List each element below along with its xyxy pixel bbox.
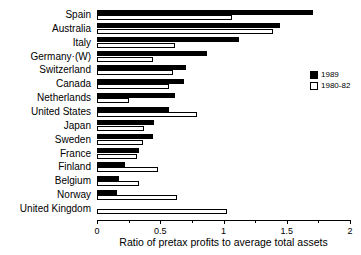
category-label: Switzerland (0, 63, 94, 77)
bar-1989 (97, 190, 117, 195)
category-label: Belgium (0, 174, 94, 188)
bar-1989 (97, 79, 184, 84)
bar-1980-82 (97, 195, 177, 200)
bar-1980-82 (97, 126, 144, 131)
bar-1989 (97, 176, 119, 181)
bar-chart: SpainAustraliaItalyGermany·(W)Switzerlan… (0, 0, 361, 255)
x-tick-minor (255, 220, 256, 223)
bar-row (97, 22, 350, 36)
x-tick-label: 0 (94, 226, 99, 236)
bar-1989 (97, 10, 313, 15)
bar-1980-82 (97, 15, 232, 20)
category-label: Japan (0, 119, 94, 133)
bar-1980-82 (97, 70, 173, 75)
bar-1980-82 (97, 112, 197, 117)
legend-label-1989: 1989 (321, 69, 339, 80)
bar-row (97, 50, 350, 64)
category-label: France (0, 147, 94, 161)
category-label: United Kingdom (0, 202, 94, 216)
x-tick (97, 220, 98, 224)
legend-swatch-1989 (310, 71, 318, 79)
category-label: Italy (0, 36, 94, 50)
x-tick (287, 220, 288, 224)
category-label: Germany·(W) (0, 50, 94, 64)
bar-1989 (97, 51, 207, 56)
bar-1980-82 (97, 29, 273, 34)
bar-row (97, 8, 350, 22)
bar-1989 (97, 65, 186, 70)
bar-1980-82 (97, 154, 137, 159)
bar-row (97, 105, 350, 119)
legend-item-1989: 1989 (310, 69, 350, 80)
category-label: Netherlands (0, 91, 94, 105)
bar-1980-82 (97, 140, 143, 145)
x-tick-minor (129, 220, 130, 223)
category-label: Finland (0, 160, 94, 174)
bar-1989 (97, 162, 125, 167)
bar-1980-82 (97, 167, 158, 172)
category-label: Sweden (0, 133, 94, 147)
x-tick-label: 1.5 (280, 226, 293, 236)
plot-area (97, 8, 350, 219)
x-tick (350, 220, 351, 224)
x-tick-minor (318, 220, 319, 223)
bar-row (97, 147, 350, 161)
bar-1989 (97, 37, 239, 42)
bar-row (97, 119, 350, 133)
bar-row (97, 36, 350, 50)
bar-1980-82 (97, 43, 175, 48)
legend-label-1980-82: 1980-82 (321, 80, 350, 91)
x-tick (224, 220, 225, 224)
bar-1989 (97, 23, 280, 28)
x-tick-label: 0.5 (154, 226, 167, 236)
bar-1980-82 (97, 84, 169, 89)
bar-row (97, 91, 350, 105)
bar-row (97, 160, 350, 174)
category-label: Australia (0, 22, 94, 36)
bar-1980-82 (97, 181, 139, 186)
bar-1989 (97, 120, 154, 125)
category-label: United States (0, 105, 94, 119)
bar-1989 (97, 148, 139, 153)
x-axis-title: Ratio of pretax profits to average total… (97, 236, 350, 248)
category-label: Canada (0, 77, 94, 91)
bar-1980-82 (97, 209, 227, 214)
category-label: Norway (0, 188, 94, 202)
bar-rows (97, 8, 350, 219)
bar-1989 (97, 107, 169, 112)
bar-row (97, 174, 350, 188)
x-tick-minor (192, 220, 193, 223)
legend-swatch-1980-82 (310, 82, 318, 90)
x-tick-label: 2 (347, 226, 352, 236)
bar-1989 (97, 93, 175, 98)
legend-item-1980-82: 1980-82 (310, 80, 350, 91)
bar-1980-82 (97, 57, 153, 62)
x-axis: 00.511.52 (97, 220, 350, 221)
category-axis-labels: SpainAustraliaItalyGermany·(W)Switzerlan… (0, 8, 94, 219)
x-tick-label: 1 (221, 226, 226, 236)
x-tick (160, 220, 161, 224)
bar-row (97, 188, 350, 202)
bar-row (97, 202, 350, 216)
category-label: Spain (0, 8, 94, 22)
bar-row (97, 133, 350, 147)
bar-1980-82 (97, 98, 129, 103)
bar-1989 (97, 134, 153, 139)
legend: 1989 1980-82 (310, 69, 350, 91)
